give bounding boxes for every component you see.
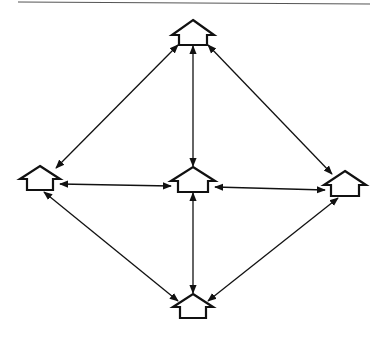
house-node-top-icon [172,20,214,45]
edge-left-center-arrow [60,184,171,186]
edge-top-right-arrow [208,45,332,174]
house-node-right-icon [324,171,366,196]
edge-center-right-arrow [215,187,325,190]
network-diagram [0,0,387,344]
house-node-center-icon [171,167,215,192]
top-rule-divider [18,2,370,4]
edge-top-left-arrow [56,45,178,168]
house-node-bottom-icon [173,294,213,318]
edge-right-bottom-arrow [208,198,338,301]
edge-left-bottom-arrow [44,192,178,301]
house-node-left-icon [20,166,60,190]
